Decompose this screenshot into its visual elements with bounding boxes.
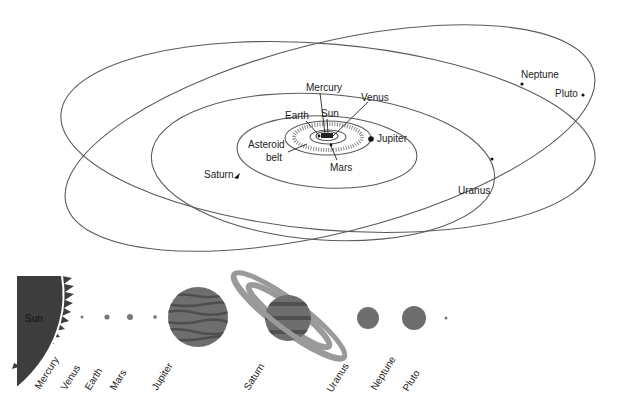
mercury-body [81, 316, 84, 319]
size-label-saturn: Saturn [241, 361, 266, 392]
saturn-body [225, 262, 353, 369]
jupiter-body [166, 287, 232, 347]
orbit-planet-markers [234, 82, 585, 179]
pluto-orbit [43, 0, 617, 296]
venus-body [104, 314, 109, 319]
size-comparison: Sun [12, 262, 448, 394]
size-label-earth: Earth [82, 366, 104, 392]
size-label-uranus: Uranus [324, 361, 350, 394]
solar-system-diagram: Mercury Venus Earth Sun Jupiter Mars Ast… [0, 0, 618, 415]
label-uranus: Uranus [458, 185, 490, 196]
size-label-venus: Venus [58, 363, 82, 392]
mars-body [153, 315, 157, 319]
saturn-marker [234, 173, 240, 179]
earth-marker [318, 135, 321, 138]
size-label-neptune: Neptune [368, 354, 398, 392]
label-neptune: Neptune [521, 69, 559, 80]
label-earth: Earth [285, 110, 309, 121]
leader-lines [288, 93, 368, 160]
pluto-body [445, 317, 448, 320]
label-venus: Venus [361, 92, 389, 103]
label-sun: Sun [321, 108, 339, 119]
label-pluto: Pluto [555, 88, 578, 99]
sun-size-label: Sun [25, 313, 43, 324]
neptune-marker [520, 82, 523, 85]
pluto-marker [581, 93, 584, 96]
orbits [43, 0, 617, 296]
earth-body [127, 314, 133, 320]
size-label-pluto: Pluto [400, 368, 422, 394]
size-label-mars: Mars [107, 367, 128, 392]
label-saturn: Saturn [204, 169, 233, 180]
neptune-body [402, 306, 426, 330]
label-mars: Mars [330, 162, 352, 173]
sun-center [321, 133, 333, 138]
uranus-body [357, 307, 379, 329]
mars-marker [330, 144, 333, 147]
size-label-jupiter: Jupiter [149, 360, 175, 392]
label-jupiter: Jupiter [377, 133, 408, 144]
uranus-marker [490, 157, 493, 160]
label-asteroid-belt-line1: Asteroid [248, 139, 285, 150]
label-mercury: Mercury [306, 82, 342, 93]
jupiter-marker [368, 136, 374, 142]
label-asteroid-belt-line2: belt [266, 152, 282, 163]
